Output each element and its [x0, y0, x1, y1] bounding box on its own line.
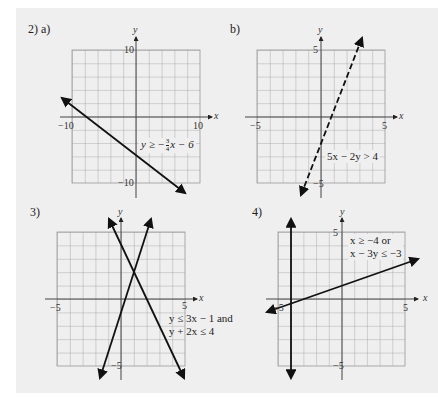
tick-y-min: −5	[333, 360, 344, 371]
inequality-3-line1: y ≤ 3x − 1 and	[169, 312, 233, 325]
y-axis-label: y	[340, 206, 344, 217]
problem-label-2a: 2) a)	[28, 22, 50, 37]
tick-x-max: 5	[403, 302, 408, 313]
inequality-4-line1: x ≥ −4 or	[350, 234, 401, 247]
tick-y-min: −5	[313, 178, 324, 189]
problem-label-3: 3)	[30, 205, 40, 220]
tick-y-max: 5	[333, 227, 338, 238]
tick-x-max: 10	[193, 120, 203, 131]
problem-label-4: 4)	[252, 205, 262, 220]
tick-x-min: −5	[273, 302, 284, 313]
tick-x-min: −5	[50, 302, 61, 313]
inequality-2a: y ≥ −34x − 6	[139, 138, 196, 153]
y-axis-label: y	[318, 24, 322, 35]
graph-2a	[60, 37, 212, 198]
x-axis-label: x	[214, 110, 218, 121]
inequality-4: x ≥ −4 or x − 3y ≤ −3	[348, 234, 403, 260]
inequality-3-line2: y + 2x ≤ 4	[169, 325, 233, 338]
graph-3	[45, 218, 197, 380]
tick-x-min: −5	[250, 120, 261, 131]
problem-label-2b: b)	[230, 22, 240, 37]
tick-y-min: −10	[118, 177, 134, 188]
tick-y-max: 5	[313, 44, 318, 55]
tick-y-min: −5	[111, 360, 122, 371]
x-axis-label: x	[423, 292, 427, 303]
inequality-2a-head: y ≥ −	[141, 138, 165, 150]
x-axis-label: x	[399, 110, 403, 121]
tick-y-max: 10	[124, 44, 134, 55]
y-axis-label: y	[133, 24, 137, 35]
x-axis-label: x	[199, 292, 203, 303]
tick-x-min: −10	[58, 120, 74, 131]
inequality-3: y ≤ 3x − 1 and y + 2x ≤ 4	[169, 312, 233, 338]
graph-2b	[245, 37, 397, 198]
y-axis-label: y	[118, 206, 122, 217]
tick-x-max: 5	[382, 120, 387, 131]
fraction: 34	[166, 138, 170, 153]
inequality-4-line2: x − 3y ≤ −3	[350, 247, 401, 260]
inequality-2a-tail: x − 6	[170, 138, 193, 150]
inequality-2b: 5x − 2y > 4	[325, 150, 380, 163]
tick-x-max: 5	[182, 300, 187, 311]
graphs-canvas	[0, 0, 438, 410]
